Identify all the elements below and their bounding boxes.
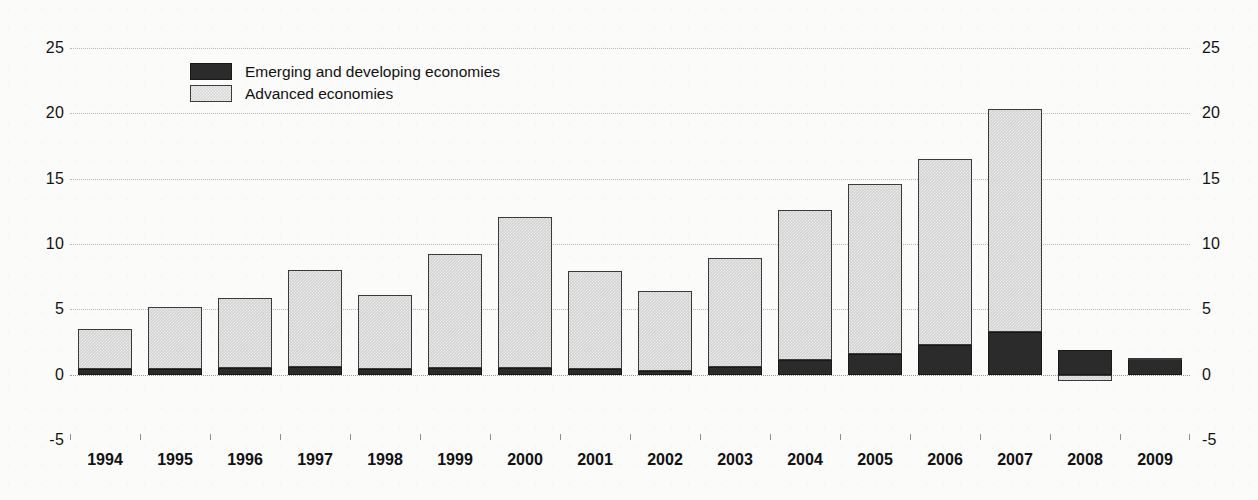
bar-1995 [148,48,202,440]
stacked-bar-chart: 2520151050-5 2520151050-5 19941995199619… [0,0,1258,500]
segment-emerging-1996 [218,368,272,375]
x-label-2006: 2006 [918,452,972,468]
bar-1997 [288,48,342,440]
x-tick-1994 [70,434,71,440]
y-tick-right--5: -5 [1202,432,1217,448]
segment-emerging-2005 [848,354,902,375]
legend-label-emerging: Emerging and developing economies [245,64,500,80]
segment-emerging-2001 [568,369,622,374]
segment-emerging-1999 [428,368,482,375]
bar-2009 [1128,48,1182,440]
x-label-1998: 1998 [358,452,412,468]
segment-advanced-1998 [358,295,412,369]
x-label-1994: 1994 [78,452,132,468]
segment-advanced-2005 [848,184,902,354]
x-label-2002: 2002 [638,452,692,468]
x-label-2007: 2007 [988,452,1042,468]
x-label-2001: 2001 [568,452,622,468]
legend-label-advanced: Advanced economies [245,86,393,102]
x-tick-1996 [210,434,211,440]
bar-2005 [848,48,902,440]
x-tick-2003 [700,434,701,440]
x-tick-1995 [140,434,141,440]
y-tick-right-5: 5 [1202,301,1211,317]
x-tick-1997 [280,434,281,440]
segment-advanced-2009 [1128,358,1182,360]
bar-2004 [778,48,832,440]
x-tick-2007 [980,434,981,440]
y-tick-right-20: 20 [1202,105,1220,121]
x-label-1999: 1999 [428,452,482,468]
segment-emerging-2004 [778,360,832,374]
dark-swatch-icon [190,63,232,80]
segment-advanced-2007 [988,109,1042,331]
y-tick-left-0: 0 [55,367,64,383]
bar-2002 [638,48,692,440]
x-tick-2008 [1050,434,1051,440]
bar-1994 [78,48,132,440]
segment-emerging-2007 [988,332,1042,375]
bar-1996 [218,48,272,440]
y-tick-left-25: 25 [46,40,64,56]
x-tick-2001 [560,434,561,440]
segment-advanced-2000 [498,217,552,369]
x-tick-2002 [630,434,631,440]
x-label-2000: 2000 [498,452,552,468]
segment-emerging-1994 [78,369,132,374]
y-tick-right-15: 15 [1202,171,1220,187]
segment-emerging-2000 [498,368,552,375]
y-tick-left--5: -5 [49,432,64,448]
light-swatch-icon [190,85,232,102]
x-tick-2009 [1120,434,1121,440]
segment-advanced-2006 [918,159,972,345]
bar-1998 [358,48,412,440]
segment-advanced-1996 [218,298,272,369]
segment-advanced-1997 [288,270,342,367]
x-label-1997: 1997 [288,452,342,468]
bar-1999 [428,48,482,440]
y-tick-left-15: 15 [46,171,64,187]
segment-advanced-2008 [1058,375,1112,382]
bar-2001 [568,48,622,440]
bar-2006 [918,48,972,440]
segment-advanced-1994 [78,329,132,370]
segment-advanced-1995 [148,307,202,370]
segment-emerging-2003 [708,367,762,375]
segment-advanced-2002 [638,291,692,371]
segment-advanced-2004 [778,210,832,360]
y-tick-right-25: 25 [1202,40,1220,56]
y-tick-left-10: 10 [46,236,64,252]
legend: Emerging and developing economies Advanc… [190,62,500,106]
bar-2007 [988,48,1042,440]
x-label-2009: 2009 [1128,452,1182,468]
plot-area [70,48,1190,440]
segment-emerging-1998 [358,369,412,374]
segment-advanced-2001 [568,271,622,369]
y-tick-left-20: 20 [46,105,64,121]
x-label-2003: 2003 [708,452,762,468]
segment-emerging-1997 [288,367,342,375]
x-label-2005: 2005 [848,452,902,468]
segment-emerging-2008 [1058,350,1112,375]
segment-advanced-2003 [708,258,762,366]
segment-advanced-1999 [428,254,482,368]
legend-item-advanced: Advanced economies [190,84,500,103]
segment-emerging-2006 [918,345,972,375]
x-tick-2000 [490,434,491,440]
x-label-1995: 1995 [148,452,202,468]
segment-emerging-2009 [1128,359,1182,375]
bar-2008 [1058,48,1112,440]
y-tick-right-10: 10 [1202,236,1220,252]
y-tick-left-5: 5 [55,301,64,317]
x-tick-2006 [910,434,911,440]
legend-item-emerging: Emerging and developing economies [190,62,500,81]
x-tick-end [1189,434,1190,440]
segment-emerging-1995 [148,369,202,374]
y-tick-right-0: 0 [1202,367,1211,383]
x-label-2008: 2008 [1058,452,1112,468]
x-tick-2004 [770,434,771,440]
segment-emerging-2002 [638,371,692,375]
x-label-2004: 2004 [778,452,832,468]
x-tick-2005 [840,434,841,440]
bar-2003 [708,48,762,440]
